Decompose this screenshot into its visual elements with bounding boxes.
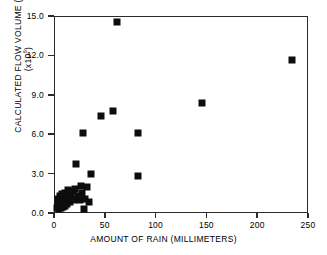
y-axis-tick bbox=[48, 15, 54, 17]
x-axis-tick bbox=[155, 213, 157, 218]
data-point bbox=[134, 129, 141, 136]
x-axis-tick-label: 150 bbox=[199, 220, 214, 230]
data-point bbox=[81, 206, 88, 213]
y-axis-title-exponent: (x106) bbox=[24, 47, 34, 72]
data-point bbox=[80, 129, 87, 136]
x-axis-tick-label: 100 bbox=[148, 220, 163, 230]
data-point bbox=[110, 107, 117, 114]
x-axis-tick-label: 200 bbox=[250, 220, 265, 230]
data-point bbox=[86, 198, 93, 205]
data-point bbox=[98, 112, 105, 119]
data-point bbox=[288, 56, 295, 63]
data-point bbox=[88, 171, 95, 178]
x-axis-tick-label: 50 bbox=[100, 220, 110, 230]
y-axis-tick-label: 0.0 bbox=[32, 208, 44, 218]
y-axis-tick-label: 3.0 bbox=[32, 169, 44, 179]
y-axis-tick bbox=[48, 212, 54, 214]
x-axis-tick bbox=[53, 213, 55, 218]
data-point bbox=[134, 172, 141, 179]
x-axis-title: AMOUNT OF RAIN (MILLIMETERS) bbox=[0, 234, 327, 244]
y-axis-tick bbox=[48, 173, 54, 175]
x-axis-tick-label: 0 bbox=[52, 220, 57, 230]
y-axis-tick bbox=[48, 94, 54, 96]
x-axis-tick bbox=[206, 213, 208, 218]
plot-area bbox=[54, 16, 308, 213]
data-point bbox=[73, 160, 80, 167]
y-axis-title: CALCULATED FLOW VOLUME (m3) (x106) bbox=[13, 0, 35, 149]
y-axis-tick bbox=[48, 55, 54, 57]
y-axis-tick bbox=[48, 133, 54, 135]
x-axis-tick-label: 250 bbox=[301, 220, 316, 230]
scatter-chart-figure: 0501001502002500.03.06.09.012.015.0 AMOU… bbox=[0, 0, 327, 255]
data-points-layer bbox=[55, 17, 307, 212]
data-point bbox=[199, 99, 206, 106]
data-point bbox=[114, 19, 121, 26]
x-axis-tick bbox=[307, 213, 309, 218]
data-point bbox=[84, 184, 91, 191]
x-axis-tick bbox=[256, 213, 258, 218]
x-axis-tick bbox=[104, 213, 106, 218]
